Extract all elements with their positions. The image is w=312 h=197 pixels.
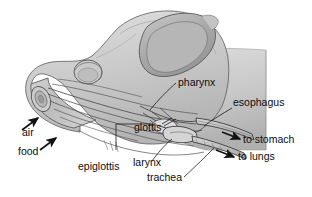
- label-pharynx: pharynx: [178, 76, 216, 88]
- label-food: food: [18, 145, 39, 157]
- leader-trachea: [184, 148, 214, 177]
- label-esophagus: esophagus: [233, 96, 284, 108]
- diagram-canvas: air food epiglottis glottis larynx trach…: [0, 0, 312, 197]
- label-larynx: larynx: [133, 156, 162, 168]
- label-trachea: trachea: [147, 171, 182, 183]
- food-arrow: [40, 138, 56, 150]
- eye: [74, 60, 102, 84]
- label-to-stomach: to stomach: [243, 133, 295, 145]
- label-glottis: glottis: [134, 121, 161, 133]
- label-to-lungs: to lungs: [238, 150, 275, 162]
- label-air: air: [22, 126, 34, 138]
- anatomy-diagram-figure: air food epiglottis glottis larynx trach…: [0, 0, 312, 197]
- label-epiglottis: epiglottis: [78, 160, 119, 172]
